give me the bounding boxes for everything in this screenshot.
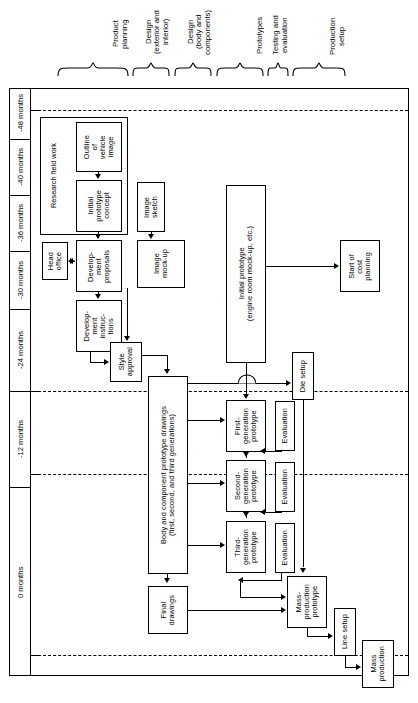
node-initial-prototype-concept[interactable]: Initial prototype concept — [76, 180, 122, 232]
node-label-image-mock-up: Image mock-up — [153, 249, 169, 278]
edge-drawings-to-gen2 — [188, 483, 220, 484]
node-label-evaluation-3: Evaluation — [281, 530, 289, 566]
brace-production-setup — [292, 62, 346, 77]
edge-arrow-proposals-to-instructions — [95, 294, 101, 299]
edge-mockup-to-style — [127, 288, 128, 338]
edge-massproto-to-linesetup-v — [307, 628, 308, 636]
edge-eval3-feedback-v — [281, 573, 282, 581]
edge-instructions-to-style-h — [90, 362, 104, 363]
node-mass-production[interactable]: Mass production — [362, 640, 394, 688]
node-label-initial-prototype: Initial prototype (engine room mock-up, … — [238, 226, 254, 321]
edge-arrow-gen2-to-gen3 — [243, 512, 249, 517]
node-first-generation-prototype[interactable]: First- generation prototype — [226, 400, 266, 452]
node-label-image-sketch: Image sketch — [143, 196, 159, 218]
axis-label-t-40: -40 months — [9, 140, 31, 195]
node-development-proposals[interactable]: Develop- ment proposals — [76, 240, 122, 292]
node-label-start-of-cost-planning: Start of cost planning — [348, 252, 372, 281]
phase-label-testing-evaluation: Testing and evaluation — [267, 10, 289, 60]
edge-die-to-massproto-v — [303, 400, 304, 567]
edge-arrow-outline-to-concept — [95, 174, 101, 179]
node-label-evaluation-2: Evaluation — [281, 469, 289, 505]
edge-arrow-gen1-to-gen2 — [243, 452, 249, 457]
phase-label-design-body-components: Design (body and components) — [174, 4, 212, 60]
brace-prototypes — [216, 62, 264, 77]
node-label-initial-prototype-concept: Initial prototype concept — [87, 190, 111, 222]
brace-testing-evaluation — [267, 62, 289, 77]
edge-arrow-to-headoffice — [68, 258, 73, 264]
axis-label-t-30: -30 months — [9, 252, 31, 309]
edge-arrow-gen3-to-massproto — [281, 594, 286, 600]
edge-prototype-down — [246, 363, 247, 396]
edge-arrow-to-die-setup — [286, 380, 291, 386]
edge-arrow-massproto-to-linesetup — [328, 633, 333, 639]
node-head-office[interactable]: Head office — [42, 242, 68, 280]
node-image-sketch[interactable]: Image sketch — [137, 182, 165, 232]
milestone-line-t-12 — [33, 474, 408, 475]
node-mass-production-prototype[interactable]: Mass- production prototype — [287, 576, 327, 628]
edge-style-to-drawings-h — [142, 355, 168, 356]
node-initial-prototype[interactable]: Initial prototype (engine room mock-up, … — [226, 185, 266, 363]
edge-arrow-style-to-drawings — [164, 369, 170, 374]
node-third-generation-prototype[interactable]: Third- generation prototype — [226, 521, 266, 573]
edge-arrow-eval1-feedback — [260, 448, 265, 454]
node-start-of-cost-planning[interactable]: Start of cost planning — [340, 240, 380, 292]
edge-linesetup-to-massprod-h — [345, 667, 356, 668]
edge-prototype-to-costplanning — [266, 266, 334, 267]
node-evaluation-3[interactable]: Evaluation — [275, 523, 295, 573]
edge-gen3-to-massproto-v — [240, 580, 241, 597]
node-label-first-generation-prototype: First- generation prototype — [234, 408, 258, 444]
node-label-head-office: Head office — [47, 252, 63, 270]
axis-label-t-48: -48 months — [9, 88, 31, 139]
edge-arrow-die-to-massproto — [300, 568, 306, 573]
edge-arrow-concept-to-proposals — [95, 234, 101, 239]
node-line-setup[interactable]: Line setup — [334, 608, 356, 656]
node-image-mock-up[interactable]: Image mock-up — [137, 240, 185, 288]
edge-drawings-to-gen1 — [188, 420, 220, 421]
edge-massproto-to-linesetup-h — [307, 636, 328, 637]
node-evaluation-1[interactable]: Evaluation — [275, 401, 295, 451]
axis-band-t-0: 0 months — [9, 488, 31, 676]
node-outline-vehicle-image[interactable]: Outline of vehicle image — [76, 122, 122, 172]
edge-drawings-to-gen3 — [188, 545, 220, 546]
edge-eval1-feedback-v — [281, 451, 282, 452]
axis-band-t-48: -48 months — [9, 88, 31, 140]
node-label-line-setup: Line setup — [341, 614, 349, 649]
node-final-drawings[interactable]: Final drawings — [148, 586, 188, 634]
phase-label-product-planning: Product planning — [57, 8, 129, 60]
node-label-evaluation-1: Evaluation — [281, 408, 289, 444]
milestone-line-t-48 — [33, 110, 408, 111]
axis-label-t-24: -24 months — [9, 310, 31, 391]
edge-arrow-eval2-feedback — [260, 509, 265, 515]
edge-arrow-sketch-to-mockup — [148, 234, 154, 239]
edge-arrow-linesetup-to-massprod — [356, 664, 361, 670]
edge-instructions-to-style-v — [90, 352, 91, 362]
group-label-research-field-work: Research field work — [43, 117, 65, 235]
node-label-style-approval: Style approval — [118, 347, 134, 376]
edge-gen3-to-massproto-h — [240, 597, 281, 598]
edge-arrow-drawings-to-final — [164, 578, 170, 583]
node-label-mass-production: Mass production — [370, 646, 386, 682]
edge-arrow-prototype-down — [243, 394, 249, 399]
edge-final-to-massproto — [188, 610, 281, 611]
node-die-setup[interactable]: Die setup — [292, 352, 314, 400]
axis-label-t-36: -36 months — [9, 196, 31, 251]
node-evaluation-2[interactable]: Evaluation — [275, 462, 295, 512]
edge-style-to-drawings-v — [167, 355, 168, 369]
node-label-third-generation-prototype: Third- generation prototype — [234, 529, 258, 565]
edge-drawings-trunk — [188, 383, 286, 384]
edge-arrow-drawings-to-gen3 — [220, 542, 225, 548]
axis-label-t-0: 0 months — [9, 488, 31, 676]
node-label-mass-production-prototype: Mass- production prototype — [295, 584, 319, 620]
phase-label-production-setup: Production setup — [292, 12, 346, 60]
axis-band-t-30: -30 months — [9, 252, 31, 310]
node-label-body-component-drawings: Body and component prototype drawings (f… — [160, 406, 176, 544]
node-second-generation-prototype[interactable]: Second- generation prototype — [226, 460, 266, 512]
edge-linesetup-to-massprod-v — [345, 656, 346, 667]
axis-band-t-24: -24 months — [9, 310, 31, 392]
node-style-approval[interactable]: Style approval — [110, 342, 142, 382]
phase-label-prototypes: Prototypes — [216, 10, 264, 60]
axis-label-t-12: -12 months — [9, 392, 31, 487]
node-body-component-drawings[interactable]: Body and component prototype drawings (f… — [148, 376, 188, 574]
edge-eval2-feedback-h — [262, 512, 282, 513]
node-label-die-setup: Die setup — [299, 360, 307, 392]
